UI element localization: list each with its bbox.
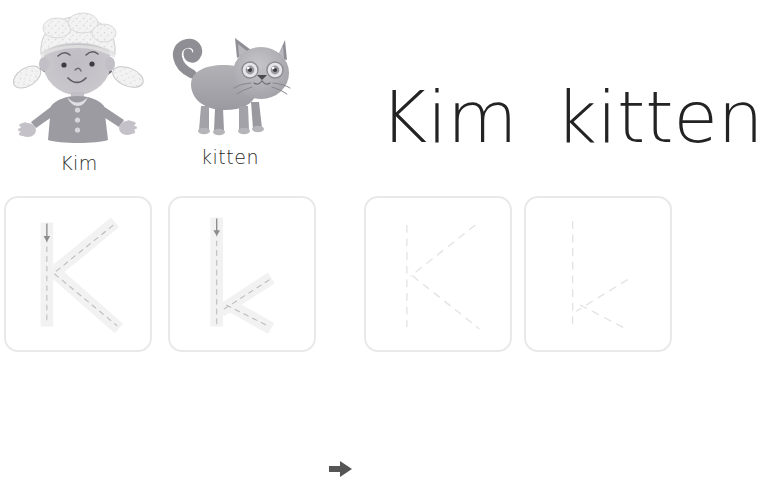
headline-word-kitten: kitten	[555, 81, 760, 153]
tracing-row: K	[0, 196, 676, 356]
trace-box-uppercase-k[interactable]: K	[4, 196, 152, 352]
headline-words: Kim kitten	[380, 62, 676, 172]
kitten-image	[165, 36, 295, 144]
arrow-right-icon	[328, 458, 354, 480]
practice-box-uppercase-k[interactable]: K	[364, 196, 512, 352]
illustration-kitten: kitten	[160, 36, 300, 167]
illustration-caption-girl: Kim	[4, 154, 154, 173]
illustration-girl: Kim	[4, 10, 154, 173]
girl-image	[5, 10, 153, 150]
practice-box-lowercase-k[interactable]: k	[524, 196, 672, 352]
headline-word-kim: Kim	[380, 81, 517, 153]
trace-box-lowercase-k[interactable]: k	[168, 196, 316, 352]
illustration-caption-kitten: kitten	[160, 148, 300, 167]
